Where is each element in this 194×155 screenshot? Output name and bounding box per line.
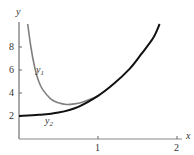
y-tick-label: 8 bbox=[9, 41, 14, 52]
curve-y2-label: y2 bbox=[44, 115, 53, 128]
y-tick-label: 6 bbox=[9, 64, 14, 75]
y-tick-label: 4 bbox=[9, 87, 14, 98]
x-tick-label: 1 bbox=[95, 142, 100, 153]
x-axis-label: x bbox=[185, 130, 191, 141]
y-tick-label: 2 bbox=[9, 110, 14, 121]
x-tick-label: 2 bbox=[174, 142, 179, 153]
y-axis-label: y bbox=[15, 6, 21, 17]
y-ticks: 2 4 6 8 bbox=[9, 41, 22, 121]
chart: y x 2 4 6 8 1 2 y1 y2 bbox=[0, 0, 194, 155]
